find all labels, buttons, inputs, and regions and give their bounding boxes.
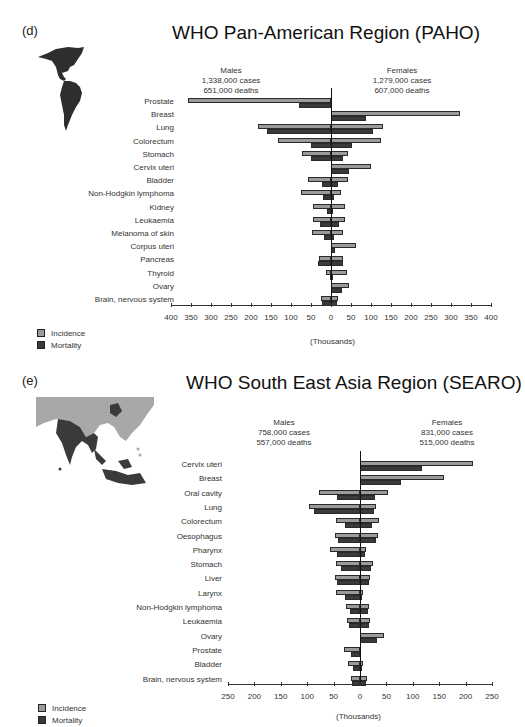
male-mortality-bar	[349, 623, 360, 628]
male-mortality-bar	[345, 523, 360, 528]
category-label: Liver	[82, 574, 222, 584]
x-tick	[228, 682, 229, 686]
category-label: Leukaemia	[82, 617, 222, 627]
female-mortality-bar	[360, 523, 372, 528]
x-tick	[439, 682, 440, 686]
legend: Incidence Mortality	[38, 702, 86, 726]
female-mortality-bar	[360, 480, 401, 485]
category-label: Brain, nervous system	[82, 675, 222, 685]
male-mortality-bar	[337, 495, 360, 500]
x-tick	[360, 682, 361, 686]
female-mortality-bar	[360, 580, 369, 585]
males-summary: Males 758,000 cases 557,000 deaths	[229, 418, 339, 448]
x-tick	[492, 682, 493, 686]
legend-mortality: Mortality	[38, 714, 86, 726]
category-label: Prostate	[82, 646, 222, 656]
female-mortality-bar	[360, 638, 377, 643]
category-label: Colorectum	[82, 517, 222, 527]
category-label: Non-Hodgkin lymphoma	[82, 603, 222, 613]
x-tick	[466, 682, 467, 686]
category-label: Breast	[82, 474, 222, 484]
category-label: Oral cavity	[82, 489, 222, 499]
female-mortality-bar	[360, 466, 422, 471]
x-tick	[334, 682, 335, 686]
x-tick	[413, 682, 414, 686]
male-mortality-bar	[353, 666, 360, 671]
category-label: Oesophagus	[82, 532, 222, 542]
category-label: Larynx	[82, 589, 222, 599]
category-label: Stomach	[82, 560, 222, 570]
females-deaths: 515,000 deaths	[392, 438, 502, 448]
male-mortality-bar	[314, 509, 360, 514]
female-mortality-bar	[360, 509, 374, 514]
category-label: Ovary	[82, 632, 222, 642]
category-label: Cervix uteri	[82, 460, 222, 470]
females-label: Females	[392, 418, 502, 428]
legend-incidence: Incidence	[38, 702, 86, 714]
female-mortality-bar	[360, 538, 376, 543]
panel-letter: (e)	[22, 373, 38, 388]
chart-title: WHO South East Asia Region (SEARO)	[186, 372, 522, 394]
females-summary: Females 831,000 cases 515,000 deaths	[392, 418, 502, 448]
legend-label: Incidence	[52, 704, 86, 713]
category-label: Lung	[82, 503, 222, 513]
female-mortality-bar	[360, 609, 368, 614]
incidence-swatch	[38, 704, 46, 712]
x-tick	[386, 682, 387, 686]
zero-axis-line	[360, 451, 361, 684]
male-mortality-bar	[345, 595, 360, 600]
x-tick	[254, 682, 255, 686]
category-label: Pharynx	[82, 546, 222, 556]
females-cases: 831,000 cases	[392, 428, 502, 438]
male-mortality-bar	[350, 609, 360, 614]
x-axis-title: (Thousands)	[336, 712, 381, 721]
category-label: Bladder	[82, 660, 222, 670]
male-mortality-bar	[341, 566, 360, 571]
male-mortality-bar	[338, 538, 360, 543]
male-mortality-bar	[337, 552, 360, 557]
legend-label: Mortality	[52, 716, 82, 725]
males-label: Males	[229, 418, 339, 428]
mortality-swatch	[38, 716, 46, 724]
panel-searo: (e) WHO South East Asia Region (SEARO) M…	[0, 0, 525, 727]
female-mortality-bar	[360, 623, 369, 628]
x-tick	[307, 682, 308, 686]
male-mortality-bar	[351, 652, 360, 657]
female-mortality-bar	[360, 566, 371, 571]
male-mortality-bar	[337, 580, 360, 585]
x-tick	[281, 682, 282, 686]
x-tick-label: 250	[477, 692, 507, 701]
males-deaths: 557,000 deaths	[229, 438, 339, 448]
female-mortality-bar	[360, 495, 375, 500]
males-cases: 758,000 cases	[229, 428, 339, 438]
